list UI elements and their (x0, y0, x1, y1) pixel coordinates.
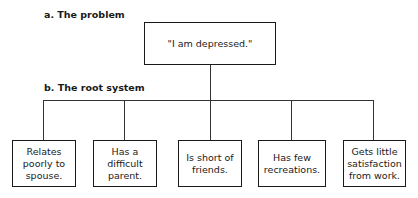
root-box-5-line-2: satisfaction (347, 158, 402, 170)
root-box-1-line-3: spouse. (23, 170, 65, 182)
root-box-4: Has few recreations. (258, 140, 326, 187)
root-box-2: Has a difficult parent. (93, 140, 157, 187)
stem-connector (210, 65, 211, 101)
section-label-root-system: b. The root system (44, 82, 145, 93)
root-box-3: Is short of friends. (178, 140, 242, 187)
root-box-3-line-1: Is short of (186, 152, 233, 164)
root-box-1-line-1: Relates (23, 146, 65, 158)
branch-connector-3 (210, 100, 211, 140)
problem-text: "I am depressed." (168, 38, 253, 50)
problem-box: "I am depressed." (144, 22, 276, 65)
root-box-5-line-3: from work. (347, 170, 402, 182)
section-label-problem: a. The problem (44, 9, 125, 20)
root-box-1: Relates poorly to spouse. (12, 140, 76, 187)
root-box-4-line-1: Has few (264, 152, 320, 164)
branch-connector-2 (124, 100, 125, 140)
root-box-3-line-2: friends. (186, 164, 233, 176)
root-box-5-line-1: Gets little (347, 146, 402, 158)
root-box-2-line-1: Has a (107, 146, 142, 158)
root-box-4-line-2: recreations. (264, 164, 320, 176)
branch-connector-5 (373, 100, 374, 140)
root-box-5: Gets little satisfaction from work. (343, 140, 406, 187)
horizontal-connector (43, 100, 374, 101)
branch-connector-1 (43, 100, 44, 140)
root-box-1-line-2: poorly to (23, 158, 65, 170)
root-box-2-line-3: parent. (107, 170, 142, 182)
root-box-2-line-2: difficult (107, 158, 142, 170)
branch-connector-4 (291, 100, 292, 140)
